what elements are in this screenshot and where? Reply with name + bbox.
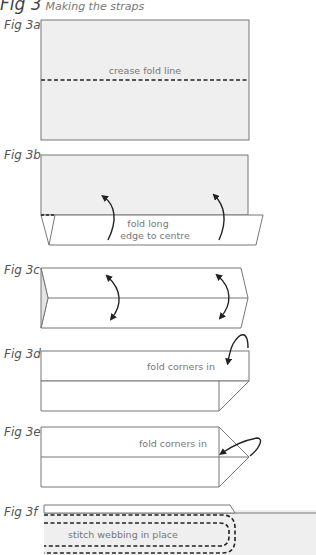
fig-3e-drawing: fold corners in xyxy=(41,427,261,487)
fig-3a-drawing: crease fold line xyxy=(41,20,249,140)
fold-long-edge-label-2: edge to centre xyxy=(120,230,190,241)
fig-3c-drawing xyxy=(41,268,248,328)
fig-3f-drawing: stitch webbing in place xyxy=(44,505,316,555)
fold-long-edge-label-1: fold long xyxy=(127,218,168,229)
fig-3d-drawing: fold corners in xyxy=(41,335,249,411)
folding-diagram: crease fold line fold long edge to centr… xyxy=(0,0,316,555)
stitch-webbing-label: stitch webbing in place xyxy=(68,529,178,540)
fold-corners-in-label-3d: fold corners in xyxy=(147,361,215,372)
crease-fold-line-label: crease fold line xyxy=(109,65,182,76)
fig-3b-drawing: fold long edge to centre xyxy=(41,155,263,245)
fold-corners-in-label-3e: fold corners in xyxy=(139,438,207,449)
